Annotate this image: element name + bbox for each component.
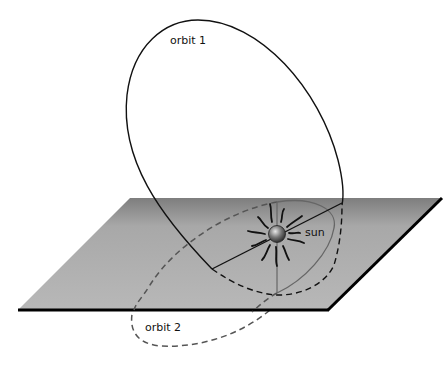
ecliptic-plane	[18, 198, 442, 310]
sun-icon	[269, 226, 286, 243]
sun-label: sun	[305, 226, 325, 239]
orbit-1-label: orbit 1	[170, 34, 206, 47]
orbit-2-label: orbit 2	[145, 321, 181, 334]
orbits-diagram: orbit 1 sun orbit 2	[0, 0, 445, 365]
diagram-canvas: orbit 1 sun orbit 2	[0, 0, 445, 365]
